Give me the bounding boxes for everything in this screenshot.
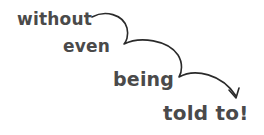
- curved-arrow-icon: [0, 0, 264, 135]
